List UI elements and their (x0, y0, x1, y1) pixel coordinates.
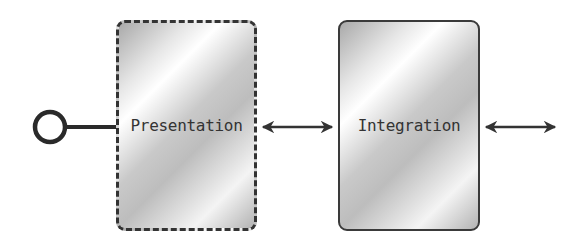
interface-lollipop-icon (35, 112, 65, 142)
presentation-layer-box: Presentation (116, 20, 257, 231)
connectors-layer (0, 0, 580, 246)
integration-label: Integration (358, 116, 461, 135)
presentation-label: Presentation (131, 116, 243, 135)
integration-layer-box: Integration (338, 20, 480, 231)
